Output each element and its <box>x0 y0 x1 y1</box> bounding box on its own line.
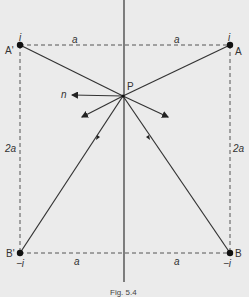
label-b-prime: B' <box>6 249 15 259</box>
dim-right-side: 2a <box>233 144 244 154</box>
charge-a-prime: i <box>19 33 21 43</box>
normal-vector-n <box>72 95 123 96</box>
dim-bottom-left: a <box>74 257 80 267</box>
label-b: B <box>235 249 242 259</box>
charge-b-prime: −i <box>16 259 24 269</box>
dim-left-side: 2a <box>5 144 16 154</box>
label-n: n <box>61 90 67 100</box>
point-p <box>122 95 125 98</box>
vector-lower-left <box>82 96 123 117</box>
dim-bottom-right: a <box>174 257 180 267</box>
label-a: A <box>235 47 242 57</box>
line-b-p <box>123 96 230 253</box>
line-a-prime-p <box>20 45 123 96</box>
charge-a: i <box>228 33 230 43</box>
dim-top-left: a <box>72 35 78 45</box>
figure-caption: Fig. 5.4 <box>110 288 137 297</box>
charge-b: −i <box>223 259 231 269</box>
dim-top-right: a <box>174 35 180 45</box>
line-a-p <box>123 45 230 96</box>
point-b <box>227 250 233 256</box>
label-a-prime: A' <box>5 46 14 56</box>
dashed-rectangle <box>20 45 230 253</box>
point-b-prime <box>17 250 23 256</box>
line-b-prime-p <box>20 96 123 253</box>
label-p: P <box>127 82 134 92</box>
